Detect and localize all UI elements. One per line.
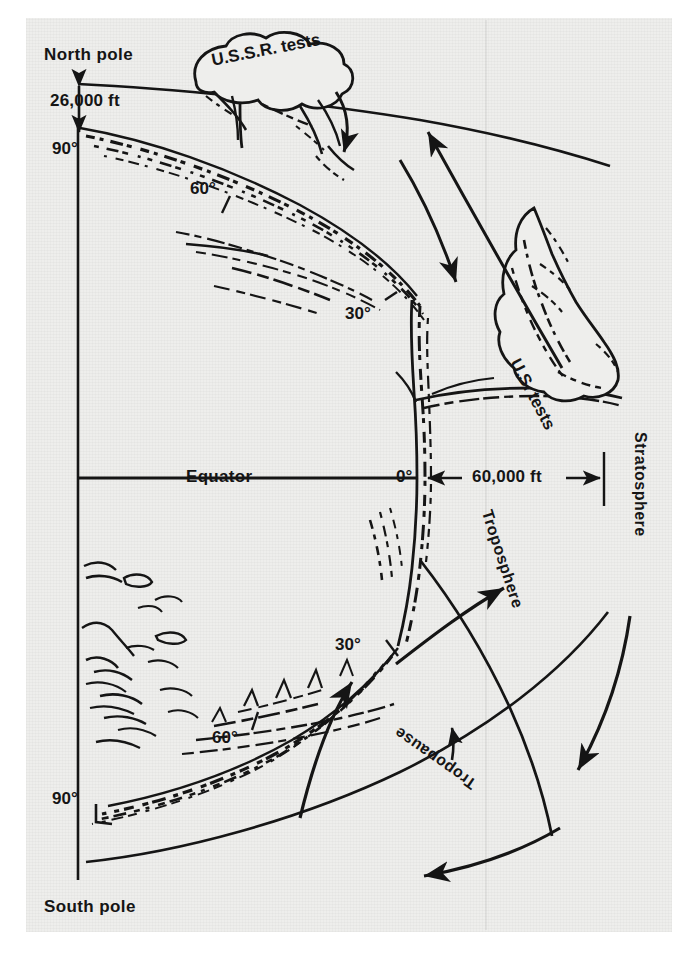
label-latitude-60n: 60° [190,180,216,197]
ussr-cloud-stem [240,104,242,148]
tropopause-northern [80,128,424,320]
tropopause-pointer-arrow [452,728,454,760]
label-polar-altitude: 26,000 ft [50,92,120,109]
label-latitude-30n: 30° [345,305,371,322]
label-latitude-90s: 90° [52,790,78,807]
label-equator: Equator [186,468,252,485]
label-latitude-90n: 90° [52,140,78,157]
latitude-tick-60s [252,712,258,730]
label-north-pole: North pole [44,46,133,63]
label-latitude-30s: 30° [335,636,361,653]
diagram-page: North pole 26,000 ft 90° 60° 30° Equator… [0,0,697,954]
label-stratosphere: Stratosphere [632,432,648,537]
stratosphere-upper-boundary-north [78,84,610,166]
latitude-tick-60n [222,196,230,213]
label-equatorial-altitude: 60,000 ft [472,468,542,485]
latitude-tick-30s [386,640,398,656]
label-latitude-60s: 60° [212,729,238,746]
latitude-tick-30n [385,292,397,300]
label-latitude-0: 0° [396,468,412,485]
tropopause-southern [92,648,398,824]
axis-lines [78,118,417,880]
label-south-pole: South pole [44,898,136,915]
diagram-artwork [0,0,697,954]
